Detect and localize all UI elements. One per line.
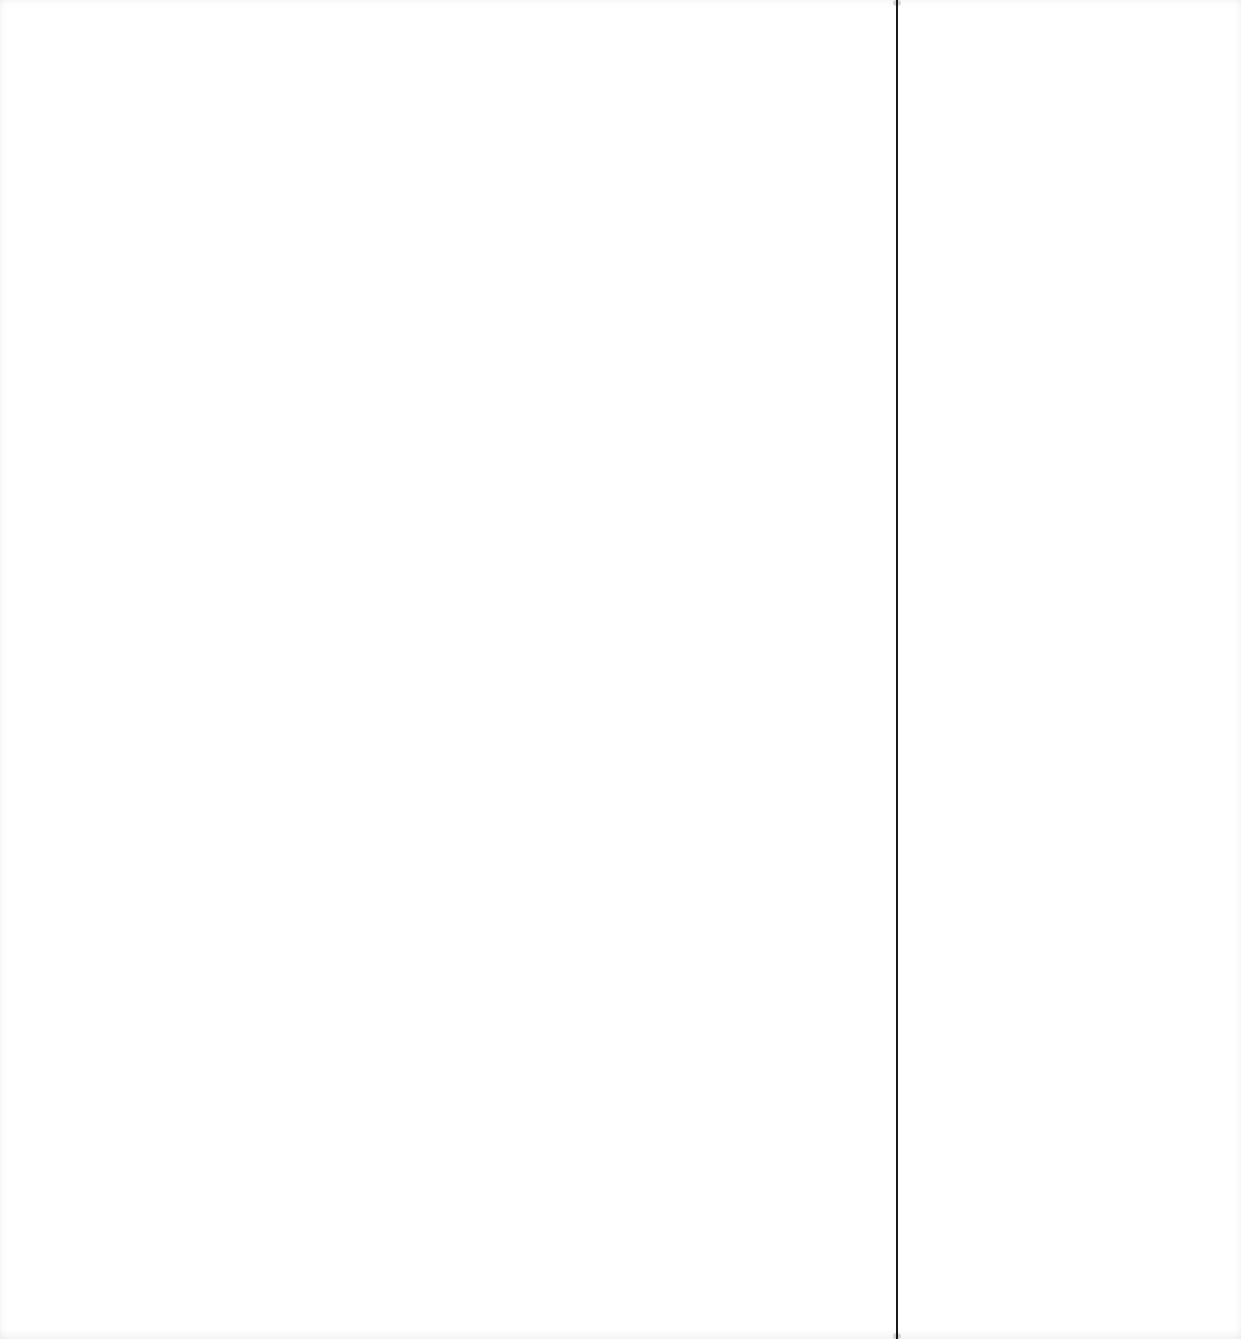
vertical-margin-rule (896, 0, 898, 1339)
rule-bottom-end (893, 1333, 901, 1339)
blank-document-page (0, 0, 1241, 1339)
